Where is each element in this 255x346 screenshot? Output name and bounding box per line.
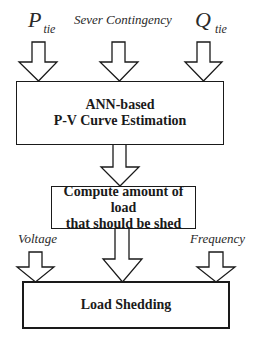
p-tie-arrow-icon: [19, 42, 57, 81]
compute-to-shedding-arrow-icon: [103, 228, 142, 282]
compute-line-1: Compute amount of load: [52, 184, 195, 216]
compute-box-text: Compute amount of load that should be sh…: [52, 184, 195, 232]
compute-line-2: that should be shed: [52, 216, 195, 232]
contingency-arrow-icon: [100, 42, 138, 81]
q-tie-arrow-icon: [185, 42, 222, 81]
voltage-label: Voltage: [18, 232, 57, 246]
estimation-box-text: ANN-based P-V Curve Estimation: [54, 97, 187, 129]
load-shedding-text: Load Shedding: [81, 297, 172, 313]
estimation-to-compute-arrow-icon: [101, 144, 139, 186]
load-shedding-box: Load Shedding: [22, 281, 230, 329]
compute-box: Compute amount of load that should be sh…: [51, 186, 196, 229]
estimation-line-1: ANN-based: [54, 97, 187, 113]
frequency-label: Frequency: [190, 232, 245, 246]
estimation-box: ANN-based P-V Curve Estimation: [16, 81, 224, 145]
frequency-arrow-icon: [197, 252, 235, 282]
voltage-arrow-icon: [17, 252, 54, 282]
estimation-line-2: P-V Curve Estimation: [54, 113, 187, 129]
flowchart: Ptie Sever Contingency Qtie ANN-based P-…: [0, 0, 255, 346]
